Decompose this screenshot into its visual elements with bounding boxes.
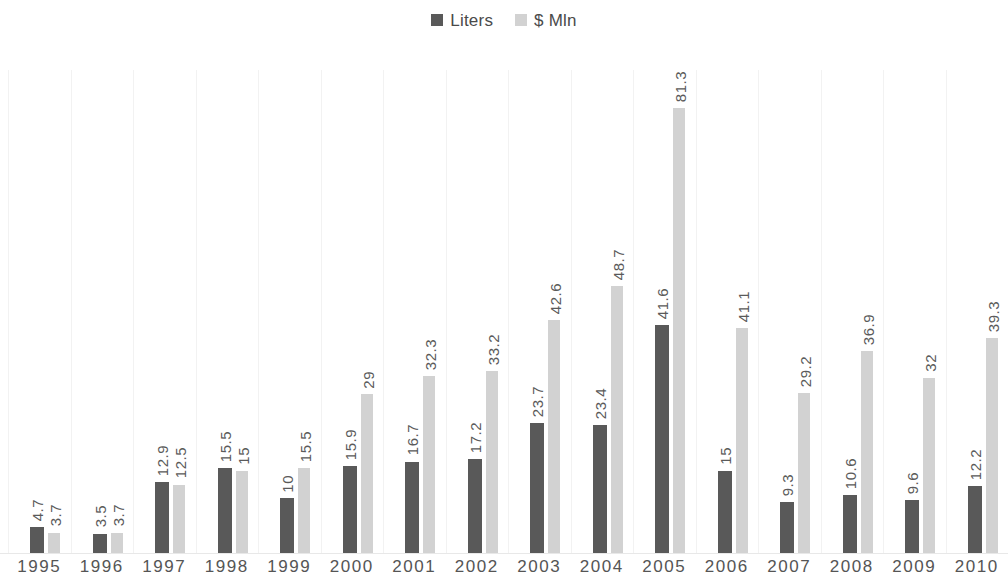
- bar-mln[interactable]: [673, 108, 685, 553]
- x-tick-label: 2002: [446, 558, 509, 577]
- plot-area: 4.73.73.53.712.912.515.5151015.515.92916…: [0, 70, 1008, 553]
- x-tick-label: 2009: [883, 558, 946, 577]
- bar-value-label-liters: 17.2: [468, 422, 482, 453]
- x-tick-label: 2004: [571, 558, 634, 577]
- bar-liters[interactable]: [905, 500, 919, 553]
- x-tick-label: 2001: [383, 558, 446, 577]
- category-axis-line: [0, 553, 1008, 554]
- bar-value-label-liters: 15.9: [343, 429, 357, 460]
- bar-liters[interactable]: [343, 466, 357, 553]
- bar-value-label-mln: 33.2: [486, 334, 498, 365]
- legend-entry-liters[interactable]: Liters: [431, 12, 493, 29]
- bar-mln[interactable]: [298, 468, 310, 553]
- bar-group: 23.742.6: [508, 70, 571, 553]
- bar-group: 17.233.2: [446, 70, 509, 553]
- bar-mln[interactable]: [798, 393, 810, 553]
- bar-mln[interactable]: [986, 338, 998, 553]
- bar-value-label-liters: 3.5: [93, 505, 107, 527]
- legend-swatch-mln-icon: [515, 14, 527, 26]
- bar-group: 9.329.2: [758, 70, 821, 553]
- bar-value-label-liters: 9.6: [905, 472, 919, 494]
- bar-mln[interactable]: [423, 376, 435, 553]
- chart-legend: Liters $ Mln: [0, 6, 1008, 34]
- legend-label-liters: Liters: [450, 12, 493, 29]
- x-axis-tick-labels: 1995199619971998199920002001200220032004…: [0, 558, 1008, 586]
- bar-mln[interactable]: [736, 328, 748, 553]
- bar-group: 3.53.7: [71, 70, 134, 553]
- x-tick-label: 2000: [321, 558, 384, 577]
- bar-value-label-mln: 12.5: [173, 447, 185, 478]
- bar-group: 10.636.9: [821, 70, 884, 553]
- bar-mln[interactable]: [548, 320, 560, 553]
- x-tick-label: 2007: [758, 558, 821, 577]
- bar-mln[interactable]: [173, 485, 185, 553]
- bar-mln[interactable]: [48, 533, 60, 553]
- x-tick-label: 1996: [71, 558, 134, 577]
- legend-swatch-liters-icon: [431, 14, 443, 26]
- bar-mln[interactable]: [111, 533, 123, 553]
- x-tick-label: 1998: [196, 558, 259, 577]
- x-tick-label: 2010: [946, 558, 1008, 577]
- bar-chart: Liters $ Mln 4.73.73.53.712.912.515.5151…: [0, 0, 1008, 586]
- x-tick-label: 2005: [633, 558, 696, 577]
- bar-mln[interactable]: [611, 286, 623, 553]
- bar-value-label-mln: 39.3: [986, 301, 998, 332]
- bar-liters[interactable]: [405, 462, 419, 553]
- bar-value-label-mln: 42.6: [548, 283, 560, 314]
- bar-value-label-liters: 12.2: [968, 449, 982, 480]
- bar-liters[interactable]: [468, 459, 482, 553]
- bar-value-label-liters: 15: [718, 447, 732, 465]
- legend-entry-mln[interactable]: $ Mln: [515, 12, 577, 29]
- bar-value-label-mln: 29: [361, 371, 373, 389]
- bar-value-label-mln: 81.3: [673, 71, 685, 102]
- bar-mln[interactable]: [923, 378, 935, 553]
- bar-liters[interactable]: [218, 468, 232, 553]
- bar-group: 1541.1: [696, 70, 759, 553]
- bar-value-label-mln: 48.7: [611, 249, 623, 280]
- bar-group: 4.73.7: [8, 70, 71, 553]
- bar-liters[interactable]: [280, 498, 294, 553]
- bar-mln[interactable]: [486, 371, 498, 553]
- bar-value-label-mln: 32.3: [423, 339, 435, 370]
- bar-value-label-mln: 3.7: [48, 504, 60, 526]
- bar-value-label-liters: 23.4: [593, 388, 607, 419]
- bar-liters[interactable]: [155, 482, 169, 553]
- bar-value-label-mln: 15: [236, 447, 248, 465]
- bar-liters[interactable]: [843, 495, 857, 553]
- bar-liters[interactable]: [30, 527, 44, 553]
- bar-value-label-liters: 23.7: [530, 386, 544, 417]
- bar-group: 9.632: [883, 70, 946, 553]
- x-tick-label: 1997: [133, 558, 196, 577]
- bar-value-label-liters: 41.6: [655, 288, 669, 319]
- bar-value-label-mln: 29.2: [798, 356, 810, 387]
- bar-mln[interactable]: [861, 351, 873, 553]
- bar-liters[interactable]: [968, 486, 982, 553]
- bar-value-label-mln: 15.5: [298, 431, 310, 462]
- bar-liters[interactable]: [780, 502, 794, 553]
- x-tick-label: 2003: [508, 558, 571, 577]
- bar-value-label-mln: 32: [923, 354, 935, 372]
- bar-liters[interactable]: [530, 423, 544, 553]
- bar-value-label-liters: 15.5: [218, 431, 232, 462]
- bar-value-label-mln: 36.9: [861, 314, 873, 345]
- x-tick-label: 1999: [258, 558, 321, 577]
- bar-liters[interactable]: [718, 471, 732, 553]
- bar-value-label-mln: 3.7: [111, 504, 123, 526]
- bar-liters[interactable]: [93, 534, 107, 553]
- x-tick-label: 2008: [821, 558, 884, 577]
- bar-value-label-liters: 16.7: [405, 424, 419, 455]
- bar-liters[interactable]: [593, 425, 607, 553]
- legend-label-mln: $ Mln: [534, 12, 577, 29]
- bar-group: 12.239.3: [946, 70, 1008, 553]
- bar-liters[interactable]: [655, 325, 669, 553]
- bar-mln[interactable]: [236, 471, 248, 553]
- bar-group: 1015.5: [258, 70, 321, 553]
- bar-value-label-liters: 9.3: [780, 474, 794, 496]
- bar-value-label-liters: 4.7: [30, 499, 44, 521]
- bar-group: 15.929: [321, 70, 384, 553]
- bar-group: 12.912.5: [133, 70, 196, 553]
- bar-group: 16.732.3: [383, 70, 446, 553]
- bar-value-label-mln: 41.1: [736, 291, 748, 322]
- bar-mln[interactable]: [361, 394, 373, 553]
- bar-value-label-liters: 10: [280, 475, 294, 493]
